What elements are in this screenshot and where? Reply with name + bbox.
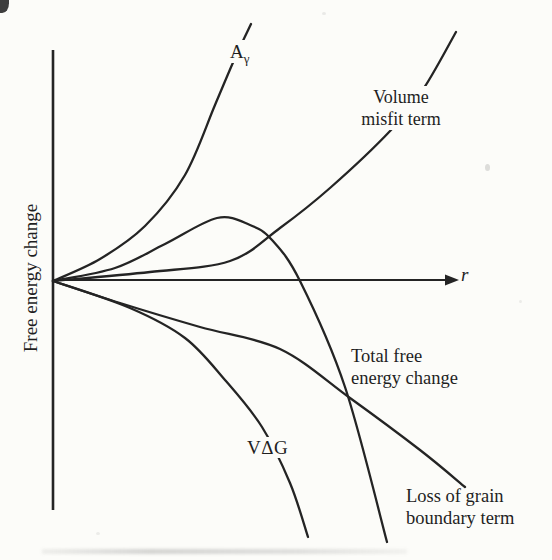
free-energy-diagram: Free energy change Aγ Volume misfit term… (0, 0, 552, 560)
scan-speck (519, 300, 522, 303)
curve-surface-area-term (53, 24, 251, 281)
y-axis-label-text: Free energy change (20, 204, 42, 352)
a-gamma-main: A (230, 41, 244, 62)
curve-label-total-free-energy: Total free energy change (351, 345, 458, 389)
scan-bottom-smudge (42, 549, 407, 554)
curve-label-grain-boundary: Loss of grain boundary term (406, 485, 514, 529)
figure-canvas (0, 0, 552, 560)
curve-label-v-delta-g: VΔG (244, 437, 291, 458)
scan-speck (322, 12, 326, 15)
curve-v-delta-g (53, 281, 308, 537)
curve-label-a-gamma: Aγ (227, 40, 252, 63)
x-axis-label: r (461, 264, 468, 285)
curve-label-volume-misfit: Volume misfit term (350, 86, 452, 130)
scan-speck (485, 164, 490, 171)
x-axis-arrowhead-icon (445, 275, 459, 286)
a-gamma-subscript: γ (244, 51, 250, 66)
curve-total-free-energy-change (53, 217, 387, 542)
scan-speck (96, 532, 100, 535)
curve-volume-misfit-term (53, 32, 456, 281)
